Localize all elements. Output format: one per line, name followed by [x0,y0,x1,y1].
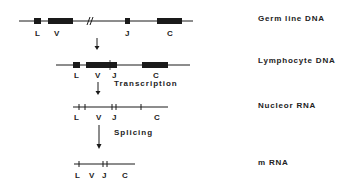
lymphocyte-dna-strand [56,60,190,70]
nuclear-rna-v-label: V [96,113,101,122]
lymphocyte-v-label: V [95,71,100,80]
nuclear-rna-c-label: C [154,113,160,122]
arrow-down-icon [96,82,101,95]
germline-j-label: J [125,29,129,38]
nuclear-rna-label: Nucleor RNA [258,101,316,110]
nuclear-rna-strand [73,104,168,110]
mrna-c-label: C [122,171,128,180]
mrna-l-label: L [75,171,80,180]
mrna-label: m RNA [258,158,289,167]
splicing-step-label: Splicing [114,128,153,137]
arrow-down-icon [95,38,100,50]
mrna-strand [74,161,135,167]
germline-l-label: L [35,29,40,38]
lymphocyte-vj-exon [86,62,117,68]
germline-c-exon [157,18,182,24]
transcription-step-label: Transcription [114,79,178,88]
germline-dna-label: Germ line DNA [258,14,325,23]
mrna-j-label: J [102,171,106,180]
nuclear-rna-l-label: L [74,113,79,122]
arrow-down-icon [97,125,102,149]
germline-j-exon [125,18,130,24]
germline-v-exon [48,18,73,24]
lymphocyte-dna-label: Lymphocyte DNA [258,56,336,65]
germline-l-exon [34,18,41,24]
germline-dna-strand [19,17,193,25]
nuclear-rna-j-label: J [112,113,116,122]
germline-c-label: C [167,29,173,38]
lymphocyte-l-label: L [74,71,79,80]
germline-v-label: V [54,29,59,38]
lymphocyte-c-exon [142,62,168,68]
mrna-v-label: V [89,171,94,180]
lymphocyte-l-exon [73,62,80,68]
